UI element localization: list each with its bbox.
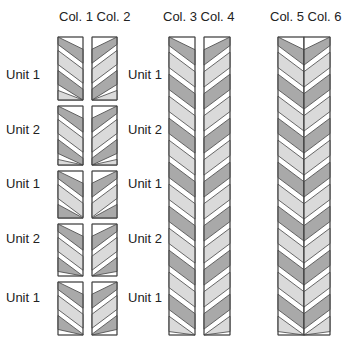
- quilt-strips-diagram: [0, 0, 347, 349]
